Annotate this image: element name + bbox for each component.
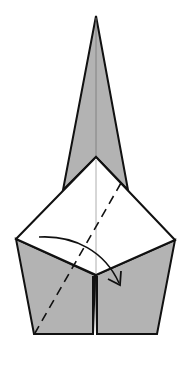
origami-diagram-svg <box>0 0 183 372</box>
origami-diagram <box>0 0 183 372</box>
